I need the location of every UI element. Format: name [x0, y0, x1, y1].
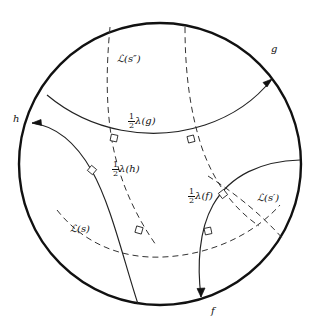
script-L-s-double-prime-text: ℒ(s″): [117, 53, 141, 64]
label-script-L-s: ℒ(s): [70, 223, 90, 234]
hyperbolic-disk-figure: ℒ(s″) ℒ(s′) ℒ(s) 1 2 λ(g) 1 2 λ(h) 1 2 λ…: [0, 0, 321, 332]
label-boundary-point-g: g: [271, 43, 277, 54]
label-half-lambda-g: 1 2 λ(g): [128, 113, 156, 130]
lambda-h-text: λ(h): [119, 163, 140, 174]
label-script-L-s-double-prime: ℒ(s″): [117, 53, 141, 64]
lambda-g-text: λ(g): [135, 115, 156, 126]
geodesic-script-L-s: [57, 205, 280, 257]
script-L-s-prime-text: ℒ(s′): [257, 192, 279, 203]
point-g-text: g: [271, 43, 277, 54]
geodesic-half-lambda-g: [47, 79, 272, 133]
geodesic-script-L-s-prime: [208, 176, 284, 240]
right-angle-mark: [204, 227, 212, 235]
script-L-s-text: ℒ(s): [70, 223, 90, 234]
right-angle-mark: [110, 134, 118, 142]
geodesic-half-lambda-h: [32, 123, 138, 304]
disk-boundary-circle: [19, 23, 301, 305]
arrowhead-h: [32, 120, 42, 126]
point-h-text: h: [13, 113, 19, 124]
label-boundary-point-f: f: [211, 305, 215, 316]
arrowhead-g: [263, 79, 272, 87]
label-boundary-point-h: h: [13, 113, 19, 124]
label-script-L-s-prime: ℒ(s′): [257, 192, 279, 203]
lambda-f-text: λ(f): [195, 190, 213, 201]
label-half-lambda-h: 1 2 λ(h): [112, 161, 140, 178]
point-f-text: f: [211, 305, 215, 316]
right-angle-mark: [87, 165, 96, 174]
right-angle-mark: [135, 226, 143, 234]
label-half-lambda-f: 1 2 λ(f): [188, 188, 213, 205]
arrowhead-f: [197, 288, 205, 297]
right-angle-mark: [218, 189, 227, 198]
right-angle-mark: [187, 135, 195, 143]
